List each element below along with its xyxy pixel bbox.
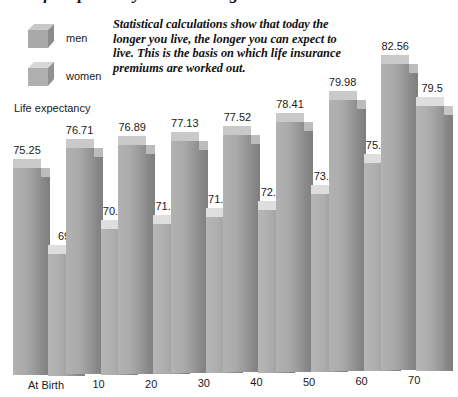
plot-area: 75.2569At Birth76.7170.741076.8971.08207… — [0, 0, 458, 397]
bar-front-face — [13, 168, 41, 375]
bar-top-bevel — [199, 141, 208, 150]
bar-side-face — [444, 115, 453, 370]
bar-top-bevel — [94, 148, 103, 157]
value-label-men: 75.25 — [5, 144, 49, 156]
bar-front-face — [381, 64, 409, 370]
value-label-men: 76.89 — [110, 121, 154, 133]
bar-front-face — [223, 135, 251, 372]
bar-men — [381, 64, 409, 370]
value-label-men: 77.52 — [215, 111, 259, 123]
bar-top-face — [118, 136, 146, 145]
value-label-men: 77.13 — [163, 117, 207, 129]
bar-top-bevel — [41, 168, 50, 177]
bar-front-face — [276, 122, 304, 371]
bar-top-bevel — [251, 135, 260, 144]
bar-top-face — [416, 97, 444, 106]
bar-men — [276, 122, 304, 371]
value-label-men: 79.98 — [321, 76, 365, 88]
bar-men — [223, 135, 251, 372]
bar-top-bevel — [409, 64, 418, 73]
bar-top-bevel — [444, 106, 453, 115]
bar-front-face — [118, 145, 146, 374]
bar-men — [13, 168, 41, 375]
bar-front-face — [66, 148, 94, 374]
value-label-men: 76.71 — [58, 124, 102, 136]
life-expectancy-chart: Life expectancy at various ages men wome… — [0, 0, 458, 397]
bar-men — [66, 148, 94, 374]
bar-top-bevel — [357, 100, 366, 109]
bar-top-bevel — [146, 145, 155, 154]
bar-front-face — [416, 106, 444, 370]
bar-top-face — [381, 55, 409, 64]
x-axis-tick-label: 70 — [383, 374, 445, 386]
bar-top-face — [329, 91, 357, 100]
bar-men — [329, 100, 357, 371]
value-label-men: 78.41 — [268, 98, 312, 110]
bar-men — [171, 141, 199, 373]
bar-top-face — [223, 126, 251, 135]
bar-men — [118, 145, 146, 374]
bar-women — [416, 106, 444, 370]
bar-front-face — [171, 141, 199, 373]
bar-front-face — [329, 100, 357, 371]
bar-top-bevel — [304, 122, 313, 131]
bar-top-face — [66, 139, 94, 148]
bar-top-face — [276, 113, 304, 122]
value-label-women: 79.5 — [410, 82, 454, 94]
bar-top-face — [171, 132, 199, 141]
value-label-men: 82.56 — [373, 40, 417, 52]
bar-top-face — [13, 159, 41, 168]
